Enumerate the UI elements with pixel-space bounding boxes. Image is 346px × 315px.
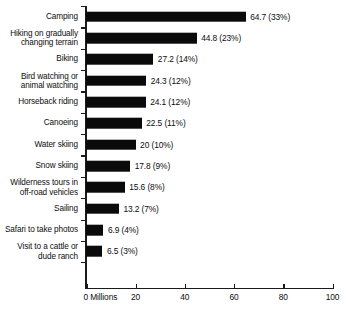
bar-row: Safari to take photos6.9 (4%)	[0, 220, 346, 241]
bar-value-label: 27.2 (14%)	[158, 55, 198, 64]
bar	[86, 225, 103, 236]
plot-area: Camping64.7 (33%)Hiking on gradually cha…	[0, 0, 346, 315]
x-axis-tick	[283, 284, 284, 289]
y-axis-tick	[81, 113, 85, 114]
bar-row: Canoeing22.5 (11%)	[0, 113, 346, 134]
category-label: Biking	[0, 55, 78, 64]
bar	[86, 161, 130, 172]
bar	[86, 139, 135, 150]
x-axis-tick	[86, 284, 87, 289]
bar	[86, 182, 124, 193]
x-axis-tick-label: 60	[229, 292, 238, 302]
category-label: Safari to take photos	[0, 225, 78, 234]
bar	[86, 11, 245, 22]
bar	[86, 75, 146, 86]
y-axis-tick	[81, 6, 85, 7]
category-label: Horseback riding	[0, 97, 78, 106]
x-axis-tick-label: 20	[131, 292, 140, 302]
category-label: Sailing	[0, 204, 78, 213]
y-axis-tick	[81, 49, 85, 50]
bar-value-label: 44.8 (23%)	[201, 33, 241, 42]
bar-chart: Camping64.7 (33%)Hiking on gradually cha…	[0, 0, 346, 315]
x-axis-tick-label: 0 Millions	[83, 292, 117, 302]
bar-rows: Camping64.7 (33%)Hiking on gradually cha…	[0, 0, 346, 288]
x-axis-tick-label: 40	[180, 292, 189, 302]
bar-value-label: 20 (10%)	[140, 140, 173, 149]
y-axis-tick	[81, 220, 85, 221]
bar	[86, 33, 196, 44]
x-axis-tick-label: 80	[279, 292, 288, 302]
category-label: Camping	[0, 12, 78, 21]
bar-value-label: 6.9 (4%)	[108, 226, 139, 235]
bar-row: Bird watching or animal watching24.3 (12…	[0, 70, 346, 91]
bar-row: Snow skiing17.8 (9%)	[0, 155, 346, 176]
x-axis-tick	[234, 284, 235, 289]
bar-row: Sailing13.2 (7%)	[0, 198, 346, 219]
bar-value-label: 22.5 (11%)	[146, 119, 185, 128]
bar-row: Horseback riding24.1 (12%)	[0, 91, 346, 112]
y-axis-tick	[81, 27, 85, 28]
bar-value-label: 13.2 (7%)	[123, 204, 158, 213]
bar-value-label: 24.3 (12%)	[151, 76, 191, 85]
bar	[86, 97, 145, 108]
y-axis-tick	[81, 91, 85, 92]
category-label: Canoeing	[0, 119, 78, 128]
bar-value-label: 24.1 (12%)	[150, 98, 190, 107]
bar-row: Wilderness tours in off-road vehicles15.…	[0, 177, 346, 198]
y-axis-tick	[81, 155, 85, 156]
category-label: Wilderness tours in off-road vehicles	[0, 178, 78, 197]
y-axis-tick	[81, 241, 85, 242]
x-axis-tick-label: 100	[326, 292, 340, 302]
bar-value-label: 6.5 (3%)	[107, 247, 138, 256]
category-label: Hiking on gradually changing terrain	[0, 29, 78, 48]
x-axis-tick	[185, 284, 186, 289]
bar-row: Water skiing20 (10%)	[0, 134, 346, 155]
category-label: Snow skiing	[0, 161, 78, 170]
bar-row: Camping64.7 (33%)	[0, 6, 346, 27]
bar	[86, 54, 153, 65]
category-label: Bird watching or animal watching	[0, 71, 78, 90]
y-axis-tick	[81, 198, 85, 199]
category-label: Visit to a cattle or dude ranch	[0, 242, 78, 261]
bar-value-label: 17.8 (9%)	[135, 162, 170, 171]
y-axis-tick	[81, 70, 85, 71]
category-label: Water skiing	[0, 140, 78, 149]
y-axis-tick	[81, 177, 85, 178]
y-axis-tick	[81, 262, 85, 263]
x-axis-tick	[136, 284, 137, 289]
bar-row: Biking27.2 (14%)	[0, 49, 346, 70]
x-axis-tick	[333, 284, 334, 289]
bar-row: Visit to a cattle or dude ranch6.5 (3%)	[0, 241, 346, 262]
bar-value-label: 15.6 (8%)	[129, 183, 164, 192]
bar-row: Hiking on gradually changing terrain44.8…	[0, 27, 346, 48]
bar	[86, 203, 118, 214]
bar	[86, 118, 141, 129]
y-axis-tick	[81, 134, 85, 135]
bar	[86, 246, 102, 257]
bar-value-label: 64.7 (33%)	[250, 12, 290, 21]
